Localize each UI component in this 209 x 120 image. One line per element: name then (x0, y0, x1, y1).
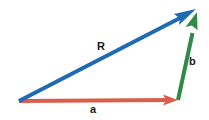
vector-label-R: R (97, 41, 105, 52)
vector-R (19, 9, 196, 101)
vector-a-shaft (19, 100, 169, 101)
vector-a (19, 95, 178, 106)
vector-R-shaft (19, 18, 180, 101)
vector-canvas (0, 0, 209, 120)
vector-diagram: R a b (0, 0, 209, 120)
vector-label-a: a (90, 104, 96, 115)
vector-label-b: b (189, 56, 196, 67)
